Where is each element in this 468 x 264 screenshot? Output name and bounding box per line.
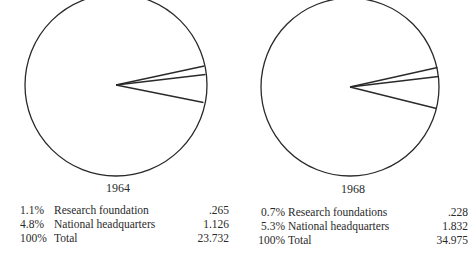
- legend-percent: 5.3%: [254, 219, 285, 233]
- legend-percent: 100%: [254, 233, 285, 247]
- legend-row-research: 0.7% Research foundations .228: [254, 205, 468, 219]
- legend-percent: 1.1%: [20, 203, 51, 217]
- legend-label: National headquarters: [51, 217, 181, 231]
- legend-label: Total: [285, 233, 423, 247]
- pie-1964-slice-edge-research-start: [116, 66, 204, 85]
- legend-value: 1.832: [423, 219, 468, 233]
- legend-value: 34.975: [423, 233, 468, 247]
- legend-percent: 0.7%: [254, 205, 285, 219]
- pie-1964-outline: [25, 0, 207, 176]
- legend-label: Research foundation: [51, 203, 181, 217]
- legend-row-nhq: 5.3% National headquarters 1.832: [254, 219, 468, 233]
- legend-percent: 4.8%: [20, 217, 51, 231]
- pie-1968-slice-edge-nhq-end: [350, 87, 437, 109]
- pie-1968-slice-edge-research-end: [350, 77, 439, 88]
- legend-value: 1.126: [181, 217, 229, 231]
- legend-value: 23.732: [181, 231, 229, 245]
- pie-1964-slice-edge-nhq-end: [116, 85, 204, 103]
- legend-row-nhq: 4.8% National headquarters 1.126: [20, 217, 229, 231]
- legend-row-research: 1.1% Research foundation .265: [20, 203, 229, 217]
- legend-1964: 1.1% Research foundation .265 4.8% Natio…: [20, 203, 229, 245]
- year-label-1964: 1964: [88, 181, 148, 196]
- legend-label: National headquarters: [285, 219, 423, 233]
- pie-1968-outline: [261, 0, 439, 176]
- legend-label: Research foundations: [285, 205, 423, 219]
- legend-row-total: 100% Total 23.732: [20, 231, 229, 245]
- pie-1968: [261, 0, 439, 176]
- legend-value: .228: [423, 205, 468, 219]
- legend-label: Total: [51, 231, 181, 245]
- legend-value: .265: [181, 203, 229, 217]
- pie-1964: [25, 0, 207, 176]
- year-label-1968: 1968: [323, 182, 383, 197]
- pie-1964-slice-edge-research-end: [116, 75, 206, 86]
- legend-percent: 100%: [20, 231, 51, 245]
- legend-1968: 0.7% Research foundations .228 5.3% Nati…: [254, 205, 468, 247]
- legend-row-total: 100% Total 34.975: [254, 233, 468, 247]
- pie-1968-slice-edge-research-start: [350, 68, 438, 88]
